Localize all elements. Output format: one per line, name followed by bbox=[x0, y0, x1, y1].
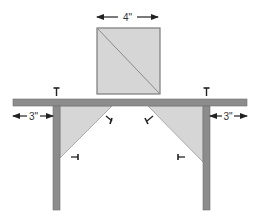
dimension-left-3in: 3" bbox=[13, 111, 53, 122]
square-panel bbox=[97, 28, 160, 94]
screw-top-right-icon bbox=[204, 88, 210, 96]
right-gusset bbox=[148, 106, 203, 162]
shelf-bracket-diagram: 4" 3" 3" bbox=[0, 0, 258, 215]
dimension-label-left-3in: 3" bbox=[29, 111, 39, 122]
screw-right-gusset-side-icon bbox=[178, 154, 185, 160]
right-leg bbox=[203, 106, 210, 210]
left-gusset bbox=[60, 106, 112, 158]
screw-left-gusset-side-icon bbox=[71, 154, 78, 160]
screw-top-left-icon bbox=[54, 88, 60, 96]
dimension-label-4in: 4" bbox=[123, 12, 133, 23]
screw-right-gusset-top-icon bbox=[145, 116, 153, 124]
left-leg bbox=[53, 106, 60, 210]
screw-left-gusset-top-icon bbox=[106, 116, 112, 124]
dimension-label-right-3in: 3" bbox=[223, 111, 233, 122]
shelf-board bbox=[13, 99, 247, 106]
dimension-right-3in: 3" bbox=[210, 111, 247, 122]
dimension-4in: 4" bbox=[97, 12, 158, 23]
